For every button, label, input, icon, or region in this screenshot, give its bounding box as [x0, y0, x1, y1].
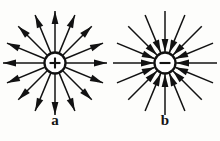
field-line-arrowhead: [90, 43, 103, 51]
field-line-arrowhead: [35, 15, 43, 28]
field-line-figure: a b: [0, 0, 220, 141]
field-line-arrowhead: [162, 39, 169, 52]
panel-label-a: a: [0, 112, 110, 128]
panel-label-b: b: [110, 112, 220, 128]
field-line-arrowhead: [52, 11, 59, 24]
field-line-arrowhead: [94, 60, 107, 67]
field-line-arrowhead: [3, 60, 16, 67]
field-line-arrowhead: [176, 60, 189, 67]
field-line-arrowhead: [67, 98, 75, 111]
field-line-arrowhead: [35, 98, 43, 111]
panel-b-negative-charge: b: [110, 0, 220, 141]
field-line-arrowhead: [141, 60, 154, 67]
field-line-arrowhead: [67, 15, 75, 28]
field-diagram-b: [110, 0, 220, 118]
field-line-arrowhead: [90, 75, 103, 83]
field-diagram-a: [0, 0, 110, 118]
field-line-arrowhead: [162, 74, 169, 87]
field-line-arrowhead: [7, 43, 20, 51]
charge-marker: [155, 53, 176, 74]
panel-a-positive-charge: a: [0, 0, 110, 141]
charge-marker: [45, 53, 66, 74]
field-line-arrowhead: [7, 75, 20, 83]
